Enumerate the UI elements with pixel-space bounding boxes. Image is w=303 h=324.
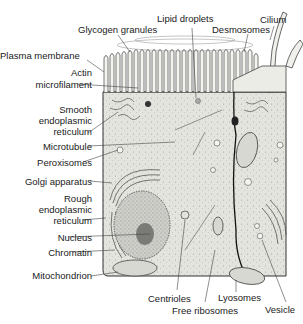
label-smooth: Smooth — [0, 104, 92, 115]
label-rough-endoplasmic: endoplasmic — [0, 204, 92, 215]
label-chromatin: Chromatin — [0, 247, 92, 258]
label-lysosomes: Lyosomes — [218, 292, 261, 303]
label-cilium: Cilium — [260, 14, 286, 25]
lipid-droplet — [196, 99, 201, 104]
nucleus-shape — [114, 191, 170, 259]
label-desmosomes: Desmosomes — [212, 24, 270, 35]
label-plasma-membrane: Plasma membrane — [0, 50, 90, 61]
label-rough: Rough — [0, 193, 92, 204]
cell-diagram: Glycogen granules Lipid droplets Desmoso… — [0, 0, 303, 324]
label-vesicle: Vesicle — [265, 304, 295, 315]
label-microtubule: Microtubule — [0, 141, 92, 152]
glycocalyx — [117, 36, 253, 51]
label-rough-reticulum: reticulum — [0, 215, 92, 226]
label-glycogen-granules: Glycogen granules — [78, 24, 157, 35]
label-mitochondrion: Mitochondrion — [0, 270, 92, 281]
label-actin: Actin — [0, 67, 92, 78]
label-smooth-endoplasmic: endoplasmic — [0, 115, 92, 126]
label-peroxisomes: Peroxisomes — [0, 157, 92, 168]
label-free-ribosomes: Free ribosomes — [172, 305, 238, 316]
glycogen-cluster — [145, 101, 151, 107]
label-centrioles: Centrioles — [148, 293, 191, 304]
label-smooth-reticulum: reticulum — [0, 126, 92, 137]
label-lipid-droplets: Lipid droplets — [157, 13, 214, 24]
desmosome-spot — [232, 117, 239, 126]
label-golgi-apparatus: Golgi apparatus — [0, 176, 92, 187]
label-nucleus: Nucleus — [0, 232, 92, 243]
label-microfilament: microfilament — [0, 79, 92, 90]
